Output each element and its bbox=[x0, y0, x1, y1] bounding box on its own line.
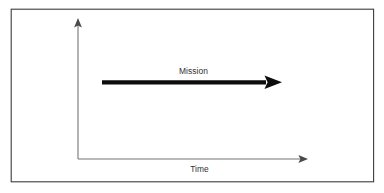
time-axis-label: Time bbox=[190, 164, 209, 174]
outer-border bbox=[11, 9, 373, 182]
mission-label: Mission bbox=[179, 66, 208, 76]
diagram-canvas: Mission Time bbox=[0, 0, 384, 193]
mission-over-time-diagram: Mission Time bbox=[0, 0, 384, 193]
